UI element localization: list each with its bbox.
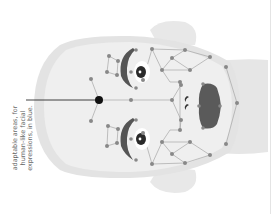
caption-line-3: expressions, in blue.: [27, 98, 35, 178]
caption: adaptable areas, for human-like facial e…: [12, 98, 35, 178]
frame-edge: [270, 0, 271, 214]
face-diagram: adaptable areas, for human-like facial e…: [0, 0, 274, 214]
mouth: [199, 84, 221, 129]
callout-dot: [95, 96, 103, 104]
